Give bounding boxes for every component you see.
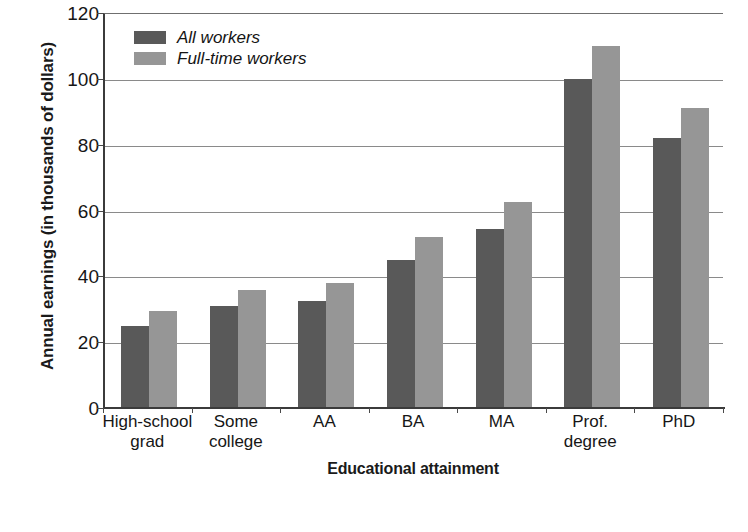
gridline xyxy=(105,212,723,213)
x-tick-label-line: PhD xyxy=(619,412,739,432)
x-axis-line xyxy=(103,407,725,409)
x-tick-label: PhD xyxy=(619,412,739,432)
legend-label: All workers xyxy=(177,28,260,48)
gridline xyxy=(105,80,723,81)
legend-item: Full-time workers xyxy=(134,48,364,69)
y-tick-label: 60 xyxy=(53,202,99,221)
x-tick-label-line: college xyxy=(176,432,296,452)
y-tick-label: 100 xyxy=(53,70,99,89)
bar xyxy=(149,311,177,408)
bar xyxy=(504,202,532,408)
bar xyxy=(564,79,592,408)
bar xyxy=(210,306,238,408)
bar xyxy=(238,290,266,409)
y-tick-label: 120 xyxy=(53,4,99,23)
bar xyxy=(326,283,354,408)
bar xyxy=(298,301,326,408)
legend-swatch xyxy=(134,52,166,65)
bar xyxy=(387,260,415,408)
x-tick-label-line: degree xyxy=(530,432,650,452)
x-axis-title: Educational attainment xyxy=(103,460,723,478)
plot-inner xyxy=(105,14,723,408)
bar xyxy=(592,46,620,408)
bar xyxy=(121,326,149,408)
y-tick-label: 40 xyxy=(53,267,99,286)
y-axis-tick-labels: 020406080100120 xyxy=(47,0,99,532)
plot-area xyxy=(103,13,723,408)
bar xyxy=(415,237,443,408)
gridline xyxy=(105,146,723,147)
legend-label: Full-time workers xyxy=(177,49,306,69)
chart-legend: All workersFull-time workers xyxy=(134,27,364,69)
bar-chart-figure: Annual earnings (in thousands of dollars… xyxy=(0,0,748,532)
bar xyxy=(681,108,709,408)
y-tick-label: 20 xyxy=(53,333,99,352)
legend-swatch xyxy=(134,31,166,44)
bar xyxy=(476,229,504,408)
legend-item: All workers xyxy=(134,27,364,48)
bar xyxy=(653,138,681,408)
y-tick-label: 80 xyxy=(53,136,99,155)
x-tick-mark xyxy=(103,408,104,413)
